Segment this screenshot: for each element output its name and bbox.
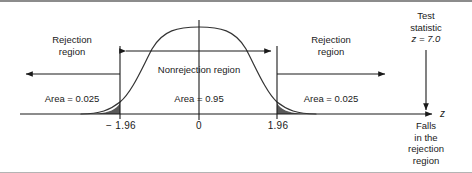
- distribution-diagram: [0, 2, 472, 173]
- test-statistic-label: Test statistic: [410, 10, 442, 33]
- area-label-left: Area = 0.025: [45, 93, 100, 105]
- tick-label-positive-critical: 1.96: [268, 120, 289, 132]
- area-label-right: Area = 0.025: [304, 93, 359, 105]
- rejection-region-label-right: Rejection region: [311, 34, 351, 57]
- area-label-center: Area = 0.95: [174, 93, 223, 105]
- z-axis-label: z: [440, 108, 445, 120]
- falls-in-rejection-region-note: Falls in the rejection region: [408, 120, 444, 166]
- tick-label-zero: 0: [196, 120, 202, 132]
- test-statistic-value: z = 7.0: [412, 33, 441, 45]
- rejection-region-label-left: Rejection region: [52, 34, 92, 57]
- nonrejection-region-label: Nonrejection region: [158, 64, 240, 76]
- statistics-figure: Rejection region Rejection region Nonrej…: [0, 0, 472, 173]
- tick-label-negative-critical: − 1.96: [106, 120, 136, 132]
